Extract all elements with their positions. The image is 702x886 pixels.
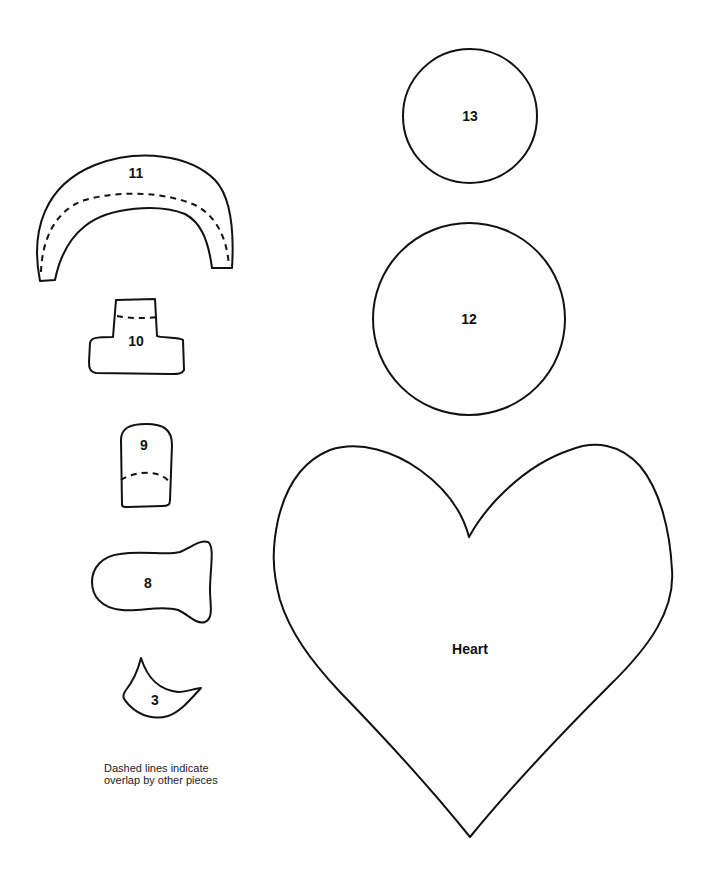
pattern-canvas: 11 10 9 8 3 13 [0,0,702,886]
piece-9-label: 9 [140,437,148,453]
piece-12-label: 12 [461,311,477,327]
legend-note: Dashed lines indicate overlap by other p… [104,762,218,786]
piece-13: 13 [403,49,537,183]
heart-label: Heart [452,641,488,657]
piece-12: 12 [373,223,565,415]
piece-10-label: 10 [128,333,144,349]
heart-piece: Heart [274,445,673,837]
legend-note-line-2: overlap by other pieces [104,774,218,786]
piece-13-label: 13 [462,108,478,124]
piece-11-label: 11 [129,165,144,181]
piece-8-label: 8 [144,575,152,591]
pattern-page: 11 10 9 8 3 13 [0,0,702,886]
legend-note-line-1: Dashed lines indicate [104,762,218,774]
piece-3: 3 [123,658,201,718]
piece-10: 10 [89,299,184,374]
piece-3-outline [123,658,201,718]
piece-3-label: 3 [151,692,159,708]
piece-11: 11 [37,156,233,281]
piece-9: 9 [121,424,172,507]
piece-8: 8 [92,542,212,623]
